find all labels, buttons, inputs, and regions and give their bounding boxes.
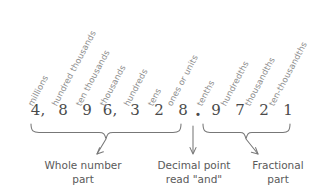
digit-thousands: 6, bbox=[100, 101, 120, 119]
caption-whole-number: Whole number part bbox=[20, 158, 146, 186]
caption-decimal-point-line2: read "and" bbox=[144, 172, 244, 186]
digit-ten-thousands: 9 bbox=[77, 101, 97, 119]
decimal-point-arrow-head bbox=[190, 148, 196, 154]
digit-millions: 4, bbox=[28, 101, 48, 119]
digit-thousandths: 2 bbox=[254, 101, 274, 119]
digit-ten-thousandths: 1 bbox=[278, 101, 298, 119]
digit-tens: 2 bbox=[149, 101, 169, 119]
whole-number-arrow-line bbox=[97, 139, 106, 154]
caption-fractional-line1: Fractional bbox=[240, 158, 316, 172]
digit-tenths: 9 bbox=[206, 101, 226, 119]
fractional-arrow-head bbox=[251, 148, 258, 154]
caption-decimal-point-line1: Decimal point bbox=[144, 158, 244, 172]
place-value-diagram: millions hundred thousands ten thousands… bbox=[0, 0, 318, 193]
caption-whole-number-line1: Whole number bbox=[20, 158, 146, 172]
place-value-label-hundred-thousands: hundred thousands bbox=[50, 29, 97, 107]
whole-number-brace bbox=[31, 124, 181, 139]
digit-hundredths: 7 bbox=[230, 101, 250, 119]
caption-whole-number-line2: part bbox=[20, 172, 146, 186]
decimal-point: . bbox=[188, 101, 208, 119]
digit-row: 4, 8 9 6, 3 2 8 . 9 7 2 1 bbox=[0, 101, 318, 121]
digit-hundreds: 3 bbox=[125, 101, 145, 119]
place-value-label-ten-thousandths: ten-thousandths bbox=[267, 40, 308, 107]
digit-hundred-thousands: 8 bbox=[53, 101, 73, 119]
fractional-arrow-line bbox=[246, 139, 258, 154]
caption-fractional-line2: part bbox=[240, 172, 316, 186]
whole-number-arrow-head bbox=[97, 148, 103, 154]
caption-decimal-point: Decimal point read "and" bbox=[144, 158, 244, 186]
fractional-brace bbox=[203, 124, 290, 139]
caption-fractional: Fractional part bbox=[240, 158, 316, 186]
